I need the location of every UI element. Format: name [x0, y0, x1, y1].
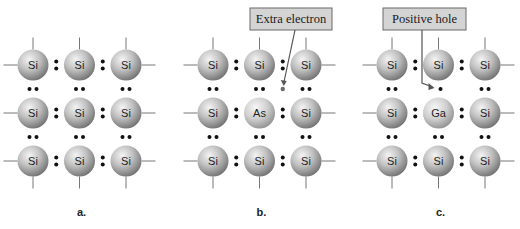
- electron-dot: [413, 60, 417, 64]
- electron-dot: [261, 135, 265, 139]
- callout-label: Positive hole: [392, 12, 457, 26]
- electron-dot: [54, 67, 58, 71]
- electron-dot: [387, 87, 391, 91]
- electron-dot: [215, 87, 219, 91]
- electron-dot: [54, 156, 58, 160]
- electron-dot: [208, 135, 212, 139]
- electron-dot: [439, 87, 443, 91]
- panel-label: b.: [257, 206, 267, 218]
- electron-dot: [387, 135, 391, 139]
- atom-symbol: Si: [28, 59, 38, 71]
- panel-c: SiSiSiSiGaSiSiSiSiPositive holec.: [363, 8, 515, 218]
- atom-symbol: Si: [255, 155, 265, 167]
- panel-label: c.: [436, 206, 445, 218]
- electron-dot: [460, 163, 464, 167]
- electron-dot: [460, 156, 464, 160]
- electron-dot: [460, 60, 464, 64]
- electron-dot: [54, 60, 58, 64]
- atom-symbol: Si: [208, 107, 218, 119]
- electron-dot: [74, 135, 78, 139]
- callout-label: Extra electron: [256, 12, 327, 26]
- electron-dot: [413, 163, 417, 167]
- atom-symbol: As: [253, 107, 266, 119]
- electron-dot: [480, 135, 484, 139]
- electron-dot: [234, 156, 238, 160]
- atom-symbol: Si: [480, 59, 490, 71]
- electron-dot: [215, 135, 219, 139]
- atom-symbol: Si: [121, 107, 131, 119]
- electron-dot: [101, 156, 105, 160]
- atom-symbol: Si: [28, 107, 38, 119]
- electron-dot: [28, 87, 32, 91]
- electron-dot: [54, 115, 58, 119]
- electron-dot: [460, 115, 464, 119]
- atom-symbol: Si: [75, 107, 85, 119]
- electron-dot: [460, 108, 464, 112]
- atom-symbol: Si: [480, 155, 490, 167]
- electron-dot: [308, 87, 312, 91]
- atom-symbol: Si: [301, 59, 311, 71]
- electron-dot: [281, 67, 285, 71]
- electron-dot: [101, 60, 105, 64]
- electron-dot: [208, 87, 212, 91]
- electron-dot: [281, 115, 285, 119]
- electron-dot: [234, 67, 238, 71]
- atom-symbol: Si: [75, 155, 85, 167]
- electron-dot: [54, 163, 58, 167]
- atom-symbol: Si: [255, 59, 265, 71]
- electron-dot: [35, 135, 39, 139]
- electron-dot: [121, 87, 125, 91]
- atom-symbol: Si: [434, 59, 444, 71]
- atom-symbol: Si: [434, 155, 444, 167]
- electron-dot: [308, 135, 312, 139]
- atom-symbol: Si: [28, 155, 38, 167]
- electron-dot: [121, 135, 125, 139]
- electron-dot: [413, 115, 417, 119]
- electron-dot: [81, 135, 85, 139]
- electron-dot: [433, 135, 437, 139]
- atom-symbol: Si: [301, 155, 311, 167]
- electron-dot: [128, 135, 132, 139]
- electron-dot: [394, 87, 398, 91]
- electron-dot: [101, 67, 105, 71]
- atom-symbol: Si: [121, 155, 131, 167]
- atom-symbol: Si: [121, 59, 131, 71]
- electron-dot: [413, 156, 417, 160]
- electron-dot: [101, 108, 105, 112]
- extra-electron-dot: [281, 87, 285, 91]
- electron-dot: [101, 163, 105, 167]
- electron-dot: [487, 135, 491, 139]
- electron-dot: [413, 108, 417, 112]
- electron-dot: [35, 87, 39, 91]
- electron-dot: [81, 87, 85, 91]
- atom-symbol: Si: [301, 107, 311, 119]
- electron-dot: [281, 60, 285, 64]
- atom-symbol: Si: [387, 107, 397, 119]
- electron-dot: [234, 108, 238, 112]
- atom-symbol: Si: [208, 59, 218, 71]
- arrow-head-icon: [281, 80, 287, 86]
- electron-dot: [254, 135, 258, 139]
- electron-dot: [394, 135, 398, 139]
- atom-symbol: Si: [208, 155, 218, 167]
- electron-dot: [440, 135, 444, 139]
- electron-dot: [301, 87, 305, 91]
- electron-dot: [28, 135, 32, 139]
- electron-dot: [480, 87, 484, 91]
- electron-dot: [254, 87, 258, 91]
- lattice-diagram: SiSiSiSiSiSiSiSiSia.SiSiSiSiAsSiSiSiSiEx…: [0, 0, 520, 229]
- electron-dot: [487, 87, 491, 91]
- electron-dot: [460, 67, 464, 71]
- atom-symbol: Si: [75, 59, 85, 71]
- electron-dot: [281, 163, 285, 167]
- electron-dot: [74, 87, 78, 91]
- electron-dot: [54, 108, 58, 112]
- panel-b: SiSiSiSiAsSiSiSiSiExtra electronb.: [184, 8, 336, 218]
- electron-dot: [281, 156, 285, 160]
- electron-dot: [261, 87, 265, 91]
- electron-dot: [301, 135, 305, 139]
- electron-dot: [234, 163, 238, 167]
- arrow-head-icon: [429, 83, 435, 90]
- electron-dot: [128, 87, 132, 91]
- electron-dot: [234, 60, 238, 64]
